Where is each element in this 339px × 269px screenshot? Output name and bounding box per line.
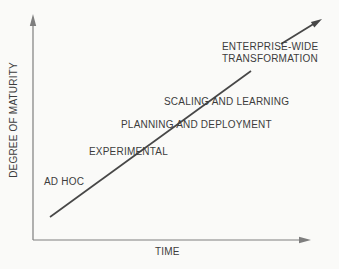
stage-label-experimental: EXPERIMENTAL [89, 146, 168, 158]
maturity-trend-line [50, 71, 251, 217]
stage-label-ad-hoc: AD HOC [44, 176, 84, 188]
stage-label-scaling-and-learning: SCALING AND LEARNING [164, 96, 289, 108]
stage-label-planning-and-deployment: PLANNING AND DEPLOYMENT [121, 119, 272, 131]
x-axis-arrowhead-icon [299, 237, 311, 243]
stage-label-enterprise-wide-transformation: ENTERPRISE-WIDE TRANSFORMATION [222, 41, 328, 64]
maturity-trend-arrowhead-icon [311, 19, 322, 28]
x-axis-label: TIME [155, 246, 180, 258]
y-axis-label: DEGREE OF MATURITY [8, 62, 20, 178]
maturity-over-time-diagram: AD HOC EXPERIMENTAL PLANNING AND DEPLOYM… [0, 0, 339, 269]
y-axis-arrowhead-icon [30, 14, 36, 26]
